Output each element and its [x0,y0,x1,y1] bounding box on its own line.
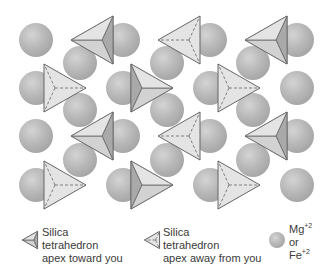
legend-toward-line3: apex toward you [42,252,123,265]
legend-toward-line1: Silica [42,226,123,239]
legend-cation-line1: Mg+2 [289,223,312,236]
legend-tetra-away-icon [144,231,159,248]
legend-cation-sphere-icon [269,232,285,248]
legend-away-line3: apex away from you [163,252,261,265]
legend-item-apex-away: Silica tetrahedron apex away from you [163,226,261,265]
legend-toward-line2: tetrahedron [42,239,123,252]
legend-cation-line2: or [289,236,312,249]
cation-sphere [280,71,314,105]
cation-sphere [19,23,53,57]
legend-away-line2: tetrahedron [163,239,261,252]
legend-cation-line3: Fe+2 [289,249,312,262]
cation-sphere [280,168,314,202]
legend-tetra-toward-icon [22,231,37,248]
cation-sphere [19,119,53,153]
legend-away-line1: Silica [163,226,261,239]
legend-item-cation: Mg+2 or Fe+2 [289,223,312,262]
legend-item-apex-toward: Silica tetrahedron apex toward you [42,226,123,265]
cation-sphere [236,143,270,177]
